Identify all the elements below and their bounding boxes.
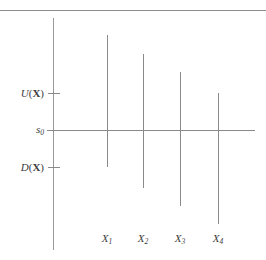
x-axis-label-sub: 3 (181, 237, 185, 246)
paren-close: ) (40, 87, 44, 99)
x-axis-label: X1 (91, 233, 124, 246)
x-axis-label-sub: 4 (219, 237, 223, 246)
y-axis-label-upper-fn: U (21, 87, 29, 99)
y-axis-label-lower-fn: D (21, 161, 29, 173)
x-axis-label: X2 (127, 233, 160, 246)
y-axis-label-middle-sub: 0 (40, 128, 44, 137)
y-axis-label-upper: U(X) (0, 88, 44, 99)
x-axis-label: X4 (202, 233, 235, 246)
y-axis-label-middle: s0 (0, 124, 44, 137)
figure-container: U(X) s0 D(X) X1 X2 X3 X4 (0, 0, 266, 260)
x-axis-label-sub: 1 (108, 237, 112, 246)
y-axis-label-lower: D(X) (0, 162, 44, 173)
x-axis-label-sub: 2 (144, 237, 148, 246)
paren-close: ) (40, 161, 44, 173)
x-axis-label: X3 (164, 233, 197, 246)
